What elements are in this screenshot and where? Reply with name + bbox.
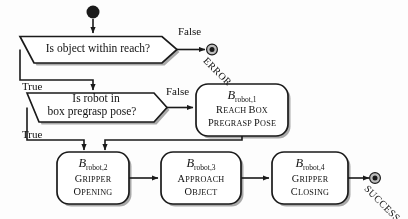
edge-label-d1-true: True — [22, 80, 42, 92]
action-node-2-symbol: B — [78, 156, 86, 170]
action-node-4-subscript: robot,4 — [303, 163, 324, 172]
action-node-3-symbol: B — [186, 156, 194, 170]
action-node-4-head: Brobot,4 — [272, 156, 348, 172]
edge-label-d1-false: False — [178, 25, 201, 37]
action-node-1-line2: PREGRASP POSE — [196, 117, 288, 129]
edge-label-d2-false: False — [166, 85, 189, 97]
action-node-1-subscript: robot,1 — [235, 95, 256, 104]
action-node-3-line2: OBJECT — [161, 186, 241, 198]
action-node-2-line2: OPENING — [57, 186, 129, 198]
action-node-1-line1: REACH BOX — [196, 104, 288, 116]
action-node-2-subscript: robot,2 — [86, 163, 107, 172]
action-node-4-line2: CLOSING — [272, 186, 348, 198]
decision-node-2-label-line1: Is robot in — [38, 92, 154, 105]
action-node-2-head: Brobot,2 — [57, 156, 129, 172]
action-node-3-line1: APPROACH — [161, 173, 241, 185]
edge-label-d2-true: True — [22, 128, 42, 140]
action-node-3-subscript: robot,3 — [194, 163, 215, 172]
action-node-2-line1: GRIPPER — [57, 173, 129, 185]
action-node-4-symbol: B — [295, 156, 303, 170]
decision-node-2-label-line2: box pregrasp pose? — [30, 105, 154, 118]
action-node-1-head: Brobot,1 — [196, 88, 288, 104]
flowchart-canvas: Is object within reach? Is robot in box … — [0, 0, 408, 219]
start-node — [87, 6, 100, 19]
terminal-error-dot — [207, 44, 218, 55]
terminal-success-dot — [370, 173, 381, 184]
action-node-4-line1: GRIPPER — [272, 173, 348, 185]
decision-node-1-label: Is object within reach? — [38, 42, 158, 55]
action-node-3-head: Brobot,3 — [161, 156, 241, 172]
action-node-1-symbol: B — [227, 88, 235, 102]
